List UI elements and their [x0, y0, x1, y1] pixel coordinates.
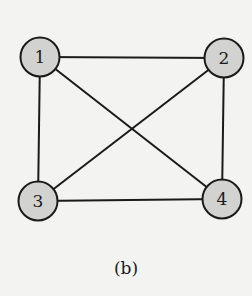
figure-caption: (b): [0, 258, 252, 278]
node-3: 3: [19, 182, 58, 221]
edge-1-3: [38, 57, 40, 201]
edges-group: [38, 57, 224, 201]
node-2: 2: [205, 39, 244, 78]
node-label: 2: [219, 48, 230, 68]
node-1: 1: [21, 38, 60, 77]
edge-3-4: [38, 199, 222, 201]
node-label: 1: [35, 47, 46, 67]
edge-2-4: [222, 58, 224, 199]
edge-1-2: [40, 57, 224, 58]
node-label: 3: [33, 191, 44, 211]
graph-figure: 1234 (b): [0, 0, 252, 296]
graph-diagram: 1234: [0, 0, 252, 296]
node-4: 4: [203, 180, 242, 219]
node-label: 4: [217, 189, 228, 209]
